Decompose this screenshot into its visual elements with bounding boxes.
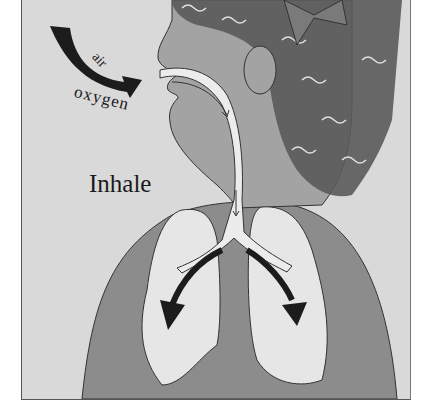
ear <box>244 46 276 94</box>
inhale-illustration: air oxygen Inhale <box>21 0 411 400</box>
breathing-diagram <box>22 0 410 399</box>
inhale-caption: Inhale <box>89 170 151 198</box>
